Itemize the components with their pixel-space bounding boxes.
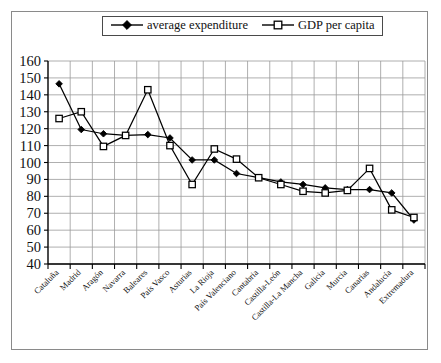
- x-tick-label: Galicia: [302, 267, 327, 292]
- series-line: [59, 90, 414, 218]
- y-tick-label: 50: [27, 239, 42, 255]
- x-axis-ticks: [48, 264, 425, 269]
- y-tick-label: 60: [27, 222, 42, 238]
- y-tick-label: 130: [19, 104, 41, 120]
- data-point-marker: [366, 186, 373, 193]
- y-tick-label: 80: [27, 188, 42, 204]
- y-tick-label: 90: [27, 171, 42, 187]
- data-point-marker: [344, 187, 350, 193]
- data-point-marker: [322, 190, 328, 196]
- data-point-marker: [56, 115, 62, 121]
- data-point-marker: [78, 109, 84, 115]
- y-axis-ticks: 405060708090100110120130140150160: [19, 53, 48, 272]
- x-axis-labels: CataluñaMadridAragónNavarraBalearesPaís …: [32, 267, 416, 323]
- y-tick-label: 110: [20, 138, 41, 154]
- data-point-marker: [144, 131, 151, 138]
- data-point-marker: [233, 170, 240, 177]
- data-point-marker: [145, 87, 151, 93]
- data-point-marker: [167, 142, 173, 148]
- data-point-marker: [100, 143, 106, 149]
- data-point-marker: [78, 126, 85, 133]
- data-point-marker: [122, 132, 128, 138]
- series-line: [59, 84, 414, 220]
- data-point-marker: [189, 181, 195, 187]
- data-point-marker: [56, 81, 63, 88]
- data-point-marker: [278, 181, 284, 187]
- data-point-marker: [389, 207, 395, 213]
- data-point-marker: [366, 165, 372, 171]
- data-point-marker: [211, 146, 217, 152]
- series-average-expenditure: [56, 81, 417, 224]
- chart-figure: average expenditure GDP per capita 40506…: [0, 0, 441, 363]
- y-tick-label: 160: [19, 53, 41, 69]
- y-tick-label: 70: [27, 205, 42, 221]
- x-tick-label: Madrid: [58, 267, 83, 292]
- data-point-marker: [411, 214, 417, 220]
- y-tick-label: 120: [19, 121, 41, 137]
- data-point-marker: [100, 130, 107, 137]
- series-gdp-per-capita: [56, 87, 417, 221]
- chart-canvas: 405060708090100110120130140150160Cataluñ…: [0, 0, 441, 363]
- y-tick-label: 100: [19, 155, 41, 171]
- y-tick-label: 40: [27, 256, 42, 272]
- data-point-marker: [300, 188, 306, 194]
- y-tick-label: 140: [19, 87, 41, 103]
- data-point-marker: [300, 181, 307, 188]
- data-point-marker: [255, 175, 261, 181]
- data-point-marker: [233, 156, 239, 162]
- y-tick-label: 150: [19, 70, 41, 86]
